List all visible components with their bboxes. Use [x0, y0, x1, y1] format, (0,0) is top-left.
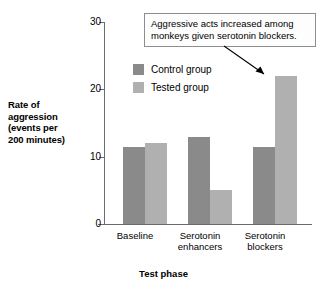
- x-axis-line: [98, 224, 312, 225]
- y-tick-label: 30: [90, 17, 101, 27]
- legend-swatch-icon: [133, 82, 144, 93]
- y-axis-title-line-1: Rate of: [8, 99, 92, 111]
- y-tick-label: 0: [95, 219, 101, 229]
- y-tick-label: 20: [90, 84, 101, 94]
- y-axis-title: Rate of aggression (events per 200 minut…: [8, 99, 92, 145]
- legend-label: Tested group: [151, 82, 209, 93]
- y-axis-title-line-2: aggression: [8, 111, 92, 123]
- y-axis-line: [104, 22, 105, 224]
- x-category-label-blockers: Serotonin blockers: [226, 230, 304, 252]
- bar-blockers-tested: [275, 76, 297, 224]
- bar-baseline-tested: [145, 143, 167, 224]
- annotation-line-1: Aggressive acts increased among: [151, 18, 310, 30]
- chart-legend: Control group Tested group: [133, 64, 212, 100]
- legend-swatch-icon: [133, 64, 144, 75]
- legend-item-tested-group: Tested group: [133, 82, 212, 93]
- y-axis-title-line-4: 200 minutes): [8, 134, 92, 146]
- bar-baseline-control: [123, 147, 145, 224]
- y-axis-title-line-3: (events per: [8, 122, 92, 134]
- legend-item-control-group: Control group: [133, 64, 212, 75]
- bar-chart-figure: Rate of aggression (events per 200 minut…: [0, 0, 327, 292]
- bar-enhancers-control: [188, 137, 210, 225]
- legend-label: Control group: [151, 64, 212, 75]
- annotation-line-2: monkeys given serotonin blockers.: [151, 30, 310, 42]
- y-tick-label: 10: [90, 152, 101, 162]
- bar-blockers-control: [253, 147, 275, 224]
- bar-enhancers-tested: [210, 190, 232, 224]
- plot-area: 30 20 10 0 Baseline Serotonin enhancers …: [104, 22, 312, 224]
- x-axis-title: Test phase: [0, 268, 327, 279]
- annotation-callout: Aggressive acts increased among monkeys …: [144, 13, 316, 47]
